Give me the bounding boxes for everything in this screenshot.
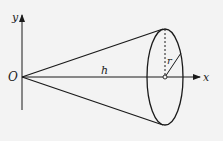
cone-lower-edge [22, 77, 163, 125]
diagram-canvas: O y x h r [0, 0, 223, 141]
base-center-point [163, 75, 167, 79]
origin-label: O [8, 70, 18, 84]
cone-upper-edge [22, 29, 163, 77]
y-axis-label: y [11, 11, 19, 24]
radius-label: r [167, 55, 173, 66]
height-label: h [101, 64, 108, 77]
x-axis-label: x [203, 71, 210, 84]
cone-diagram: O y x h r [0, 0, 223, 141]
